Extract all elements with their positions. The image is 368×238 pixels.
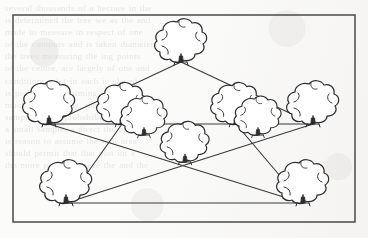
tree-icon (40, 160, 92, 206)
tree-icon (287, 81, 339, 127)
tree-icon (277, 160, 329, 206)
tree-survey-figure (0, 0, 368, 238)
tree-group (23, 19, 339, 206)
tree-icon (23, 81, 75, 127)
tree-icon (155, 19, 207, 65)
figure-page: several thousands of a hectare in the is… (0, 0, 368, 238)
tree-icon (160, 121, 209, 165)
